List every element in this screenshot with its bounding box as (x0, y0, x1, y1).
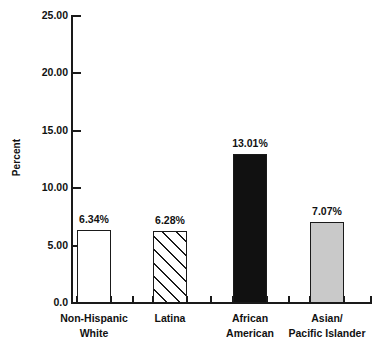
y-axis-tick-label: 20.00 (8, 66, 68, 78)
y-axis-line (71, 15, 73, 304)
x-axis-category-label: Asian/ Pacific Islander (272, 311, 381, 341)
y-axis-tick-label: 10.00 (8, 181, 68, 193)
y-axis-tick (73, 15, 81, 17)
y-axis-tick (73, 130, 81, 132)
bar (153, 231, 187, 303)
bar-chart: Percent 0.05.0010.0015.0020.0025.00 6.34… (0, 0, 381, 349)
y-axis-tick-label: 5.00 (8, 239, 68, 251)
y-axis-tick (73, 72, 81, 74)
y-axis-tick-label: 25.00 (8, 9, 68, 21)
y-axis-tick (73, 187, 81, 189)
x-axis-tick (132, 296, 134, 303)
x-axis-tick (288, 296, 290, 303)
bar (233, 154, 267, 303)
bar (310, 222, 344, 303)
y-axis-tick-label: 0.0 (8, 296, 68, 308)
x-axis-tick (210, 296, 212, 303)
bar-value-label: 13.01% (210, 137, 290, 149)
bar-value-label: 7.07% (287, 205, 367, 217)
bar-value-label: 6.34% (54, 213, 134, 225)
bar (77, 230, 111, 303)
x-axis-tick (370, 296, 372, 303)
y-axis-tick-label: 15.00 (8, 124, 68, 136)
bar-value-label: 6.28% (130, 214, 210, 226)
